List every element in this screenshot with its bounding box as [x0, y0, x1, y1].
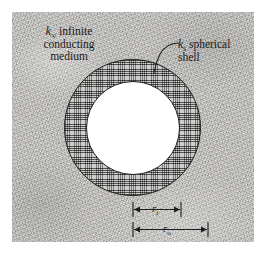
dimension-label-outer-radius: ro [163, 222, 171, 234]
label-medium-line1: k∞ infinite [46, 25, 93, 37]
label-medium-line3: medium [50, 50, 88, 62]
subscript-o: o [167, 229, 171, 237]
leader-line-shell [148, 40, 182, 76]
label-shell-line1: ks spherical [178, 38, 230, 50]
dimension-outer-radius [127, 220, 215, 239]
label-spherical-shell: ks spherical shell [178, 38, 252, 63]
inner-cavity [86, 81, 180, 175]
dimension-label-inner-radius: ri [152, 202, 158, 214]
subscript-i: i [156, 209, 158, 217]
label-infinite-medium: k∞ infinite conducting medium [29, 25, 109, 63]
figure-spherical-shell: k∞ infinite conducting medium ks spheric… [0, 0, 266, 254]
label-medium-line2: conducting [43, 38, 94, 50]
